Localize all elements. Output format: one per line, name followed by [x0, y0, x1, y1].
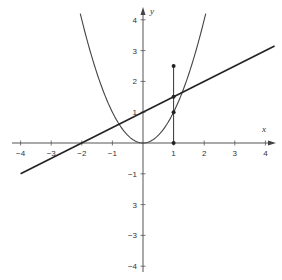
x-tick-label: −1 [108, 149, 118, 158]
function-plot: −4−3−2−112344321−13−3−4 x y [0, 0, 282, 280]
y-tick-label: 2 [133, 77, 138, 86]
y-tick-label: −1 [128, 170, 138, 179]
data-point [172, 110, 176, 114]
x-axis-arrow-icon [268, 141, 276, 146]
x-axis-label: x [261, 124, 266, 134]
data-point [172, 64, 176, 68]
data-point [172, 95, 176, 99]
x-tick-label: −2 [77, 149, 87, 158]
y-tick-label: 3 [133, 47, 138, 56]
y-axis-label: y [149, 6, 154, 16]
y-tick-label: −3 [128, 231, 138, 240]
y-tick-label: −4 [128, 262, 138, 271]
data-point [172, 141, 176, 145]
x-tick-label: 1 [171, 149, 176, 158]
x-tick-label: 3 [233, 149, 238, 158]
y-axis-arrow-icon [141, 7, 146, 15]
axes: −4−3−2−112344321−13−3−4 [12, 7, 276, 272]
x-tick-label: 2 [202, 149, 207, 158]
x-tick-label: 4 [263, 149, 268, 158]
y-tick-label: 3 [133, 201, 138, 210]
x-tick-label: −4 [16, 149, 26, 158]
y-tick-label: 4 [133, 16, 138, 25]
